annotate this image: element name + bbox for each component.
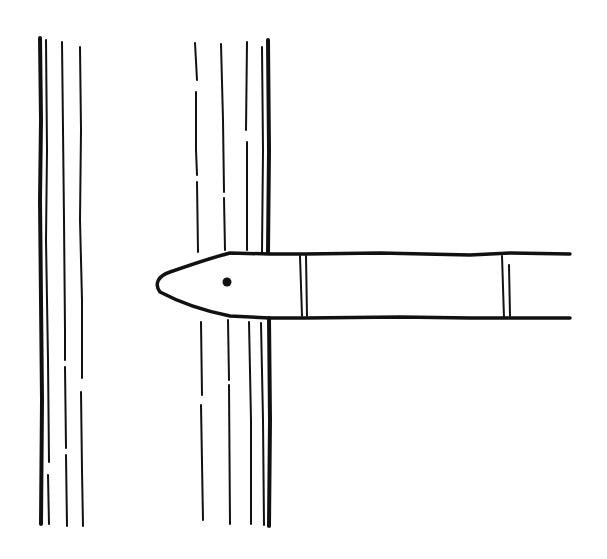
- left-thick-line: [40, 38, 42, 524]
- pencil-band-1-line-b: [306, 256, 307, 316]
- illustration-canvas: [0, 0, 607, 559]
- right-thick-line-upper: [268, 40, 269, 252]
- pencil-eye-dot: [223, 278, 232, 287]
- pencil-band-2-line-b: [509, 265, 510, 316]
- background: [0, 0, 607, 559]
- right-thin-line-4-upper: [262, 47, 263, 252]
- right-thick-line-lower: [269, 318, 270, 526]
- right-thin-line-3-upper: [246, 42, 247, 250]
